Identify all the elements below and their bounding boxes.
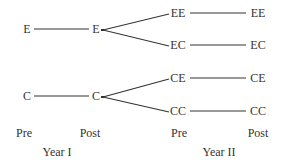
year2-label: Year II: [202, 146, 235, 158]
node-ee-pre: EE: [171, 7, 186, 19]
branch-c-to-ce: [103, 79, 169, 97]
design-diagram: E E C C EE EE EC EC CE CE CC CC Pre Post…: [0, 0, 284, 163]
node-e-pre: E: [23, 23, 30, 35]
year2-pre-label: Pre: [171, 127, 187, 139]
year1-label: Year I: [42, 146, 71, 158]
node-cc-pre: CC: [170, 105, 186, 117]
year1-post-label: Post: [80, 127, 101, 139]
node-c-post: C: [92, 90, 100, 102]
node-ee-post: EE: [251, 7, 266, 19]
branch-e-to-ee: [103, 14, 169, 30]
branch-point-e: [101, 29, 104, 31]
branch-e-to-ec: [103, 30, 169, 46]
node-e-post: E: [92, 23, 99, 35]
node-ce-pre: CE: [170, 72, 185, 84]
node-ce-post: CE: [250, 72, 265, 84]
node-c-pre: C: [23, 90, 31, 102]
connector-lines: [0, 0, 284, 163]
node-ec-post: EC: [250, 39, 265, 51]
node-cc-post: CC: [250, 105, 266, 117]
year2-post-label: Post: [248, 127, 269, 139]
branch-point-c: [101, 96, 104, 98]
year1-pre-label: Pre: [16, 127, 32, 139]
node-ec-pre: EC: [170, 39, 185, 51]
branch-c-to-cc: [103, 97, 169, 112]
